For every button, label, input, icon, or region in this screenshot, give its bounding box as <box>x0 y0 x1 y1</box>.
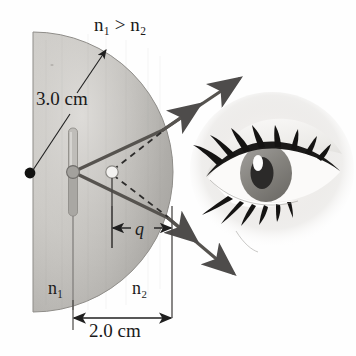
radius-label: 3.0 cm <box>36 88 88 110</box>
object-vertex-dot <box>67 166 80 179</box>
optics-diagram <box>0 0 356 356</box>
object-distance-label: 2.0 cm <box>89 320 141 342</box>
figure-canvas: n₁ > n₂ 3.0 cm n₁ n₂ q 2.0 cm <box>0 0 356 356</box>
medium-left-label: n₁ <box>48 278 63 299</box>
index-inequality-label: n₁ > n₂ <box>94 14 146 36</box>
medium-right-label: n₂ <box>132 278 147 299</box>
image-distance-label: q <box>135 219 144 240</box>
glass-semicircle <box>33 32 173 312</box>
eye-illustration <box>190 92 354 252</box>
